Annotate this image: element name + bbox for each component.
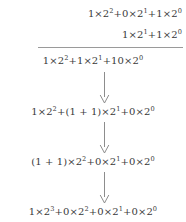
step-2-term-1-exponent: 2: [53, 105, 57, 113]
step-2-term-2-coefficient: (1 + 1): [65, 106, 101, 117]
augend-term-2-exponent: 1: [144, 7, 148, 15]
step-1-term-3-times: ×: [124, 55, 132, 66]
step-3-term-1-times: ×: [67, 156, 75, 167]
step-3-term-3-times: ×: [136, 156, 144, 167]
step-4-expression: 1×23+0×22+0×21+0×20: [0, 207, 186, 217]
addend-term-1-times: ×: [129, 29, 137, 40]
step-3-term-2-times: ×: [101, 156, 109, 167]
addition-bar: [38, 47, 183, 48]
augend-term-1-exponent: 2: [109, 7, 113, 15]
step-4-term-2-exponent: 2: [84, 205, 88, 213]
step-1-term-1-times: ×: [49, 55, 57, 66]
step-2-term-3-exponent: 0: [151, 105, 155, 113]
step-2-term-3-times: ×: [136, 106, 144, 117]
step-2-expression: 1×22+(1 + 1)×21+0×20: [0, 107, 186, 117]
augend-term-2-times: ×: [129, 8, 137, 19]
step-4-term-3-exponent: 1: [119, 205, 123, 213]
augend-term-1-times: ×: [94, 8, 102, 19]
augend-expression: 1×22+0×21+1×20: [88, 9, 182, 19]
step-3-term-3-exponent: 0: [151, 155, 155, 163]
step-3-term-1-exponent: 2: [82, 155, 86, 163]
augend-term-3-exponent: 0: [178, 7, 182, 15]
step-3-expression: (1 + 1)×22+0×21+0×20: [0, 157, 186, 167]
step-3-term-2-exponent: 1: [116, 155, 120, 163]
step-3-term-1-coefficient: (1 + 1): [31, 156, 67, 167]
step-2-term-1-times: ×: [38, 106, 46, 117]
step-1-term-3-coefficient: 10: [111, 55, 124, 66]
arrow-down-icon-2: [97, 122, 112, 154]
addend-term-1-exponent: 1: [144, 28, 148, 36]
augend-term-3-times: ×: [163, 8, 171, 19]
step-2-term-2-exponent: 1: [116, 105, 120, 113]
addend-term-2-times: ×: [163, 29, 171, 40]
step-4-term-3-times: ×: [104, 206, 112, 217]
arrow-down-icon-1: [97, 72, 112, 104]
step-1-term-2-times: ×: [83, 55, 91, 66]
derivation-sheet: 1×22+0×21+1×20 1×21+1×20 1×22+1×21+10×20…: [0, 0, 186, 222]
step-4-term-1-exponent: 3: [50, 205, 54, 213]
arrow-down-icon-3: [97, 172, 112, 204]
step-4-term-2-times: ×: [70, 206, 78, 217]
step-1-term-2-exponent: 1: [98, 54, 102, 62]
step-1-term-1-exponent: 2: [64, 54, 68, 62]
step-4-term-1-times: ×: [35, 206, 43, 217]
step-4-term-4-exponent: 0: [153, 205, 157, 213]
step-1-expression: 1×22+1×21+10×20: [0, 56, 186, 66]
step-1-term-3-exponent: 0: [139, 54, 143, 62]
addend-expression: 1×21+1×20: [122, 30, 182, 40]
addend-term-2-exponent: 0: [178, 28, 182, 36]
step-2-term-2-times: ×: [101, 106, 109, 117]
